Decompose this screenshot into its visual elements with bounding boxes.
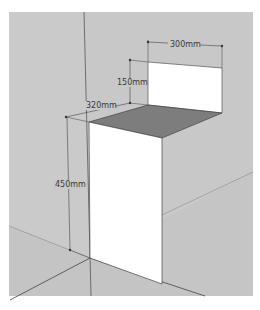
backsplash-panel[interactable]: [148, 62, 222, 113]
dimension-depth-label: 320mm: [86, 101, 117, 110]
dimension-width-label: 300mm: [170, 40, 201, 49]
dimension-backsplash-height-label: 150mm: [117, 78, 148, 87]
sketch-viewport[interactable]: 300mm 150mm 320mm 450mm: [0, 0, 260, 310]
box-front[interactable]: [89, 122, 162, 284]
dimension-height-label: 450mm: [55, 180, 86, 189]
left-wall: [9, 12, 90, 258]
